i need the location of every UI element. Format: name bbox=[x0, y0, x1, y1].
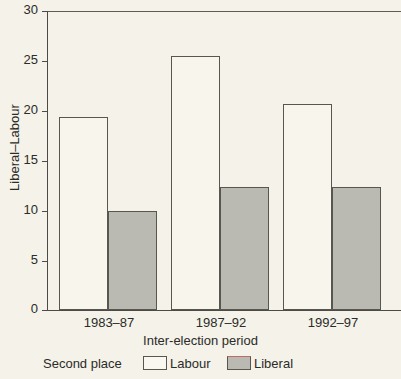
y-tick-label-0: 0 bbox=[31, 301, 38, 317]
y-tick-0: 0 bbox=[0, 310, 47, 311]
y-tick-label-30: 30 bbox=[24, 2, 38, 18]
labour-swatch-icon bbox=[143, 356, 167, 370]
legend-label-labour: Labour bbox=[170, 356, 210, 372]
x-axis-line bbox=[47, 310, 401, 311]
bar-liberal-1983-87 bbox=[108, 211, 157, 310]
bar-labour-1987-92 bbox=[171, 56, 220, 310]
legend-label-liberal: Liberal bbox=[254, 356, 293, 372]
y-tick-label-10: 10 bbox=[24, 202, 38, 218]
y-tick-5: 5 bbox=[0, 261, 47, 262]
liberal-swatch-icon bbox=[227, 356, 251, 370]
y-tick-label-25: 25 bbox=[24, 52, 38, 68]
legend: Second place Labour Liberal bbox=[0, 354, 401, 376]
bar-liberal-1987-92 bbox=[220, 187, 269, 310]
bar-labour-1983-87 bbox=[59, 117, 108, 310]
y-tick-label-20: 20 bbox=[24, 102, 38, 118]
plot-area bbox=[47, 11, 401, 310]
y-tick-label-5: 5 bbox=[31, 252, 38, 268]
y-tick-10: 10 bbox=[0, 211, 47, 212]
y-axis-title: Liberal–Labour bbox=[7, 73, 22, 223]
x-axis-title: Inter-election period bbox=[0, 333, 401, 349]
y-tick-30: 30 bbox=[0, 11, 47, 12]
y-tick-20: 20 bbox=[0, 111, 47, 112]
x-tick-label-1992-97: 1992–97 bbox=[283, 315, 383, 331]
x-tick-label-1987-92: 1987–92 bbox=[171, 315, 271, 331]
y-tick-25: 25 bbox=[0, 61, 47, 62]
legend-title: Second place bbox=[43, 356, 122, 372]
y-tick-label-15: 15 bbox=[24, 152, 38, 168]
bar-labour-1992-97 bbox=[283, 104, 332, 310]
bar-liberal-1992-97 bbox=[332, 187, 381, 310]
x-tick-label-1983-87: 1983–87 bbox=[59, 315, 159, 331]
bar-chart-figure: Liberal–Labour 30 25 20 15 10 5 0 bbox=[0, 0, 401, 379]
y-tick-15: 15 bbox=[0, 161, 47, 162]
